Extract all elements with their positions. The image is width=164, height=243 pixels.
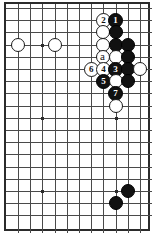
- grid-line-horizontal: [6, 130, 152, 131]
- star-point: [115, 190, 118, 193]
- go-board-diagram: 2164357 a: [0, 0, 164, 243]
- go-stone-white: [133, 62, 147, 76]
- grid-line-horizontal: [6, 106, 152, 107]
- move-number: 3: [113, 65, 118, 74]
- go-stone-white: [11, 38, 25, 52]
- move-number: 7: [113, 89, 118, 98]
- grid-line-horizontal: [6, 32, 152, 33]
- move-number: 2: [101, 16, 106, 25]
- go-stone-white: [109, 99, 123, 113]
- go-board-frame: 2164357 a: [4, 2, 150, 231]
- star-point: [41, 44, 44, 47]
- move-number: 1: [113, 16, 118, 25]
- board-point-label: a: [100, 51, 105, 62]
- star-point: [41, 117, 44, 120]
- grid-line-horizontal: [6, 20, 152, 21]
- grid-line-horizontal: [6, 118, 152, 119]
- go-stone-black: [121, 74, 135, 88]
- grid-line-horizontal: [6, 142, 152, 143]
- grid-line-horizontal: [6, 179, 152, 180]
- grid-line-horizontal: [6, 93, 152, 94]
- move-number: 6: [89, 65, 94, 74]
- go-stone-white: [48, 38, 62, 52]
- go-stone-black: [109, 196, 123, 210]
- grid-line-horizontal: [6, 203, 152, 204]
- star-point: [115, 117, 118, 120]
- move-number: 4: [101, 65, 106, 74]
- go-stone-black: [121, 184, 135, 198]
- star-point: [41, 190, 44, 193]
- grid-line-horizontal: [6, 215, 152, 216]
- grid-line-horizontal: [6, 154, 152, 155]
- grid-line-horizontal: [6, 167, 152, 168]
- move-number: 5: [101, 77, 106, 86]
- grid-line-horizontal: [6, 8, 152, 9]
